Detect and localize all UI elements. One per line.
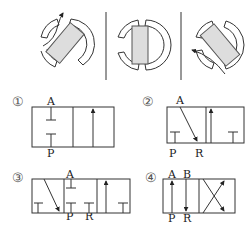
option-2[interactable]: ② A P R bbox=[142, 94, 244, 160]
spool bbox=[132, 26, 148, 64]
option-number: ④ bbox=[145, 170, 157, 185]
option-number: ② bbox=[142, 94, 154, 109]
rotary-view-right bbox=[192, 21, 244, 74]
port-label-p: P bbox=[168, 212, 176, 225]
option-number: ① bbox=[12, 94, 24, 109]
option-3[interactable]: ③ A P R bbox=[12, 168, 130, 223]
port-label-a: A bbox=[46, 95, 56, 108]
port-label-a: A bbox=[175, 94, 185, 107]
spool bbox=[200, 24, 240, 66]
port-label-p: P bbox=[169, 147, 177, 160]
port-label-p: P bbox=[47, 147, 55, 160]
option-4[interactable]: ④ A B P R bbox=[145, 168, 235, 225]
rotary-view-center bbox=[118, 20, 171, 70]
valve-diagram: ① A P ② A P R ③ A P R bbox=[0, 0, 252, 229]
port-label-r: R bbox=[183, 212, 192, 225]
option-number: ③ bbox=[12, 170, 24, 185]
rotary-view-left bbox=[41, 13, 95, 67]
option-1[interactable]: ① A P bbox=[12, 94, 114, 160]
port-label-r: R bbox=[195, 147, 204, 160]
